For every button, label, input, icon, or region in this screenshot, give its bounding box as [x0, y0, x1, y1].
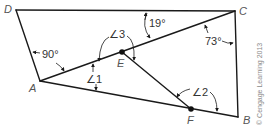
vertex-e-label: E: [117, 57, 125, 69]
arc-2-right: [210, 92, 217, 111]
point-f-dot: [188, 106, 194, 112]
arc-2-left: [177, 89, 190, 97]
point-e-dot: [119, 49, 125, 55]
segment-da: [16, 10, 40, 81]
geometry-figure: 90° 19° 73° ∠3 ∠1 ∠2 D C A B E F © Cenga…: [0, 0, 270, 138]
segment-ef: [122, 52, 191, 109]
vertex-b-label: B: [243, 114, 250, 126]
vertex-f-label: F: [187, 114, 195, 126]
vertex-d-label: D: [4, 3, 12, 15]
arrow-90-left: [33, 52, 40, 53]
arc-19-start-arrow: [145, 13, 146, 20]
angle-19-label: 19°: [149, 17, 166, 29]
angle-73-label: 73°: [205, 35, 222, 47]
segment-cb: [235, 11, 238, 117]
copyright-credit: © Cengage Learning 2013: [256, 43, 264, 125]
angle-3-label: ∠3: [109, 28, 125, 40]
segment-dc: [16, 10, 235, 11]
angle-1-label: ∠1: [86, 73, 102, 85]
arrow-73-diag: [205, 25, 208, 33]
arrow-90-right: [56, 63, 64, 71]
angle-2-label: ∠2: [192, 86, 208, 98]
segment-ab: [40, 81, 238, 117]
vertex-c-label: C: [239, 5, 247, 17]
angle-90-label: 90°: [42, 48, 59, 60]
arrow-73-side: [222, 41, 233, 43]
vertex-a-label: A: [28, 82, 36, 94]
